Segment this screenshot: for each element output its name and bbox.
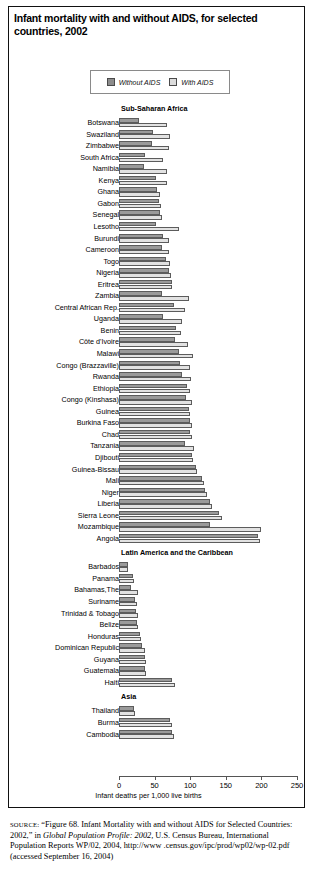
figure-title: Infant mortality with and without AIDS, …	[14, 12, 276, 37]
bar-without-aids	[119, 234, 163, 239]
chart-row: Belize	[0, 619, 297, 631]
category-label: Togo	[3, 256, 119, 268]
category-label: South Africa	[3, 152, 119, 164]
x-axis-line	[119, 776, 297, 777]
bar-without-aids	[119, 488, 205, 493]
bar-without-aids	[119, 245, 162, 250]
bar-without-aids	[119, 465, 196, 470]
category-label: Trinidad & Tobago	[3, 608, 119, 620]
bar-without-aids	[119, 407, 189, 412]
chart-row: South Africa	[0, 152, 297, 164]
chart-plot-area: Sub-Saharan AfricaBotswanaSwazilandZimba…	[0, 104, 297, 776]
x-tick	[190, 776, 191, 780]
chart-row: Bahamas,The	[0, 584, 297, 596]
bar-without-aids	[119, 176, 156, 181]
bar-without-aids	[119, 130, 153, 135]
category-label: Guinea	[3, 406, 119, 418]
bar-with-aids	[119, 238, 169, 243]
figure-page: Infant mortality with and without AIDS, …	[0, 0, 313, 878]
chart-row: Angola	[0, 533, 297, 545]
category-label: Benin	[3, 325, 119, 337]
category-label: Uganda	[3, 313, 119, 325]
chart-row: Central African Rep.	[0, 302, 297, 314]
category-label: Côte d'Ivoire	[3, 336, 119, 348]
bar-with-aids	[119, 331, 181, 336]
category-label: Guinea-Bissau	[3, 464, 119, 476]
bar-with-aids	[119, 671, 146, 676]
chart-row: Niger	[0, 487, 297, 499]
chart-row: Namibia	[0, 163, 297, 175]
chart-row: Cameroon	[0, 244, 297, 256]
bar-without-aids	[119, 718, 170, 723]
bar-without-aids	[119, 511, 219, 516]
category-label: Suriname	[3, 596, 119, 608]
x-tick	[297, 776, 298, 780]
bar-with-aids	[119, 660, 146, 665]
category-label: Zambia	[3, 290, 119, 302]
bar-with-aids	[119, 365, 190, 370]
x-tick-label: 50	[140, 781, 170, 790]
bar-without-aids	[119, 268, 169, 273]
chart-row: Togo	[0, 256, 297, 268]
chart-row: Burma	[0, 717, 297, 729]
x-tick-label: 250	[282, 781, 312, 790]
bar-without-aids	[119, 280, 172, 285]
category-label: Guyana	[3, 654, 119, 666]
bar-with-aids	[119, 250, 169, 255]
bar-with-aids	[119, 169, 167, 174]
bar-without-aids	[119, 655, 145, 660]
bar-with-aids	[119, 648, 145, 653]
bar-without-aids	[119, 534, 258, 539]
category-label: Sierra Leone	[3, 510, 119, 522]
bar-with-aids	[119, 377, 191, 382]
x-tick	[155, 776, 156, 780]
category-label: Cameroon	[3, 244, 119, 256]
bar-without-aids	[119, 118, 139, 123]
category-label: Barbados	[3, 561, 119, 573]
category-label: Haiti	[3, 677, 119, 689]
chart-row: Guinea	[0, 406, 297, 418]
bar-without-aids	[119, 210, 160, 215]
chart-row: Benin	[0, 325, 297, 337]
bar-without-aids	[119, 562, 128, 567]
bar-without-aids	[119, 314, 163, 319]
category-label: Panama	[3, 573, 119, 585]
x-tick	[119, 776, 120, 780]
bar-with-aids	[119, 261, 170, 266]
source-label: SOURCE:	[10, 821, 39, 828]
chart-row: Haiti	[0, 677, 297, 689]
x-tick-label: 0	[104, 781, 134, 790]
bar-without-aids	[119, 632, 140, 637]
bar-without-aids	[119, 585, 131, 590]
bar-with-aids	[119, 389, 190, 394]
chart-row: Guyana	[0, 654, 297, 666]
bar-without-aids	[119, 666, 145, 671]
chart-row: Zimbabwe	[0, 140, 297, 152]
bar-without-aids	[119, 706, 134, 711]
category-label: Honduras	[3, 631, 119, 643]
chart-row: Guinea-Bissau	[0, 464, 297, 476]
bar-with-aids	[119, 637, 141, 642]
bar-with-aids	[119, 192, 160, 197]
group-header-sub-saharan-africa: Sub-Saharan Africa	[121, 104, 187, 113]
chart-row: Burundi	[0, 233, 297, 245]
bar-without-aids	[119, 430, 190, 435]
bar-with-aids	[119, 723, 172, 728]
bar-with-aids	[119, 492, 207, 497]
category-label: Angola	[3, 533, 119, 545]
category-label: Belize	[3, 619, 119, 631]
bar-with-aids	[119, 296, 189, 301]
bar-without-aids	[119, 643, 142, 648]
bar-without-aids	[119, 453, 192, 458]
bar-with-aids	[119, 146, 169, 151]
bar-without-aids	[119, 609, 136, 614]
chart-row: Senegal	[0, 209, 297, 221]
chart-row: Cambodia	[0, 729, 297, 741]
category-label: Djibouti	[3, 452, 119, 464]
bar-without-aids	[119, 499, 210, 504]
category-label: Mali	[3, 475, 119, 487]
bar-with-aids	[119, 516, 222, 521]
bar-without-aids	[119, 395, 186, 400]
bar-with-aids	[119, 625, 138, 630]
source-note: SOURCE: “Figure 68. Infant Mortality wit…	[10, 820, 305, 862]
